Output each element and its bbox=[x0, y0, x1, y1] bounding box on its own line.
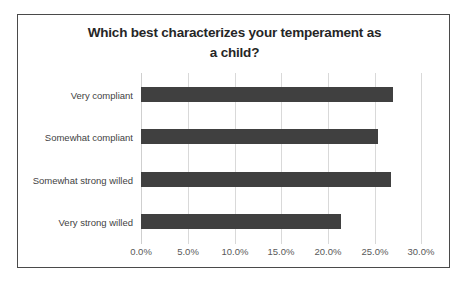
chart-title-line-1: Which best characterizes your temperamen… bbox=[38, 23, 431, 43]
bar[interactable] bbox=[141, 214, 341, 229]
chart-frame: Which best characterizes your temperamen… bbox=[17, 14, 450, 268]
plot-area: Very compliant Somewhat compliant Somewh… bbox=[141, 73, 422, 244]
gridline-6 bbox=[421, 73, 422, 244]
category-label: Very compliant bbox=[71, 89, 133, 100]
x-tick-label: 15.0% bbox=[268, 246, 295, 257]
category-label: Very strong willed bbox=[59, 216, 133, 227]
bar[interactable] bbox=[141, 172, 391, 187]
bar-row: Somewhat strong willed bbox=[141, 172, 391, 187]
x-tick-label: 0.0% bbox=[130, 246, 152, 257]
chart-title: Which best characterizes your temperamen… bbox=[38, 23, 431, 63]
x-tick-label: 30.0% bbox=[408, 246, 435, 257]
category-label: Somewhat strong willed bbox=[33, 174, 133, 185]
bar[interactable] bbox=[141, 129, 378, 144]
bar-row: Somewhat compliant bbox=[141, 129, 378, 144]
x-tick-label: 10.0% bbox=[222, 246, 249, 257]
category-label: Somewhat compliant bbox=[45, 131, 133, 142]
x-axis-tick-labels: 0.0% 5.0% 10.0% 15.0% 20.0% 25.0% 30.0% bbox=[141, 246, 422, 262]
bar-row: Very compliant bbox=[141, 87, 393, 102]
x-tick-label: 20.0% bbox=[315, 246, 342, 257]
bar[interactable] bbox=[141, 87, 393, 102]
chart-title-line-2: a child? bbox=[38, 43, 431, 63]
bar-row: Very strong willed bbox=[141, 214, 341, 229]
x-tick-label: 5.0% bbox=[177, 246, 199, 257]
x-tick-label: 25.0% bbox=[362, 246, 389, 257]
